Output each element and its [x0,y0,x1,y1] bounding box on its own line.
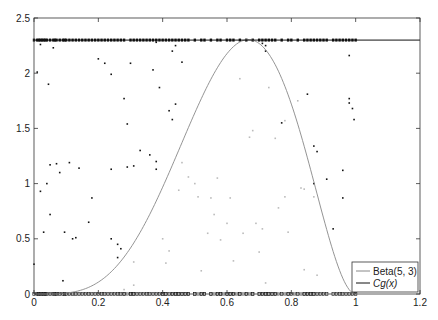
rejected-point [139,150,141,152]
rejected-point [117,244,119,246]
rejected-point [326,178,328,180]
rejected-point [69,162,71,164]
rejected-point [342,197,344,199]
accepted-point [278,207,280,209]
beta-curve [34,40,356,294]
rejected-point [98,58,100,60]
accepted-point [313,196,315,198]
accepted-point [123,289,125,291]
y-tick-label: 2.5 [16,13,30,24]
rejected-point [313,145,315,147]
axes-box [34,18,420,294]
rejected-point [352,108,354,110]
plot-area: 00.20.40.60.811.200.511.522.5 Beta(5, 3)… [0,0,438,320]
rejected-point [78,167,80,169]
rejected-point [149,154,151,156]
rejected-point [40,44,42,46]
accepted-point [242,232,244,234]
accepted-point [287,231,289,233]
accepted-point [217,177,219,179]
accepted-point [226,223,228,225]
accepted-point [168,250,170,252]
rejected-point [316,151,318,153]
accepted-point [229,197,231,199]
rejected-point [159,87,161,89]
rejected-point [342,170,344,172]
rejected-point [120,248,122,250]
rug-marks [33,39,357,296]
rejected-point [75,237,77,239]
accepted-point [316,274,318,276]
rejected-point [123,98,125,100]
x-tick-label: 0.4 [156,297,170,308]
rejected-point [117,257,119,259]
accepted-point [297,100,299,102]
rejected-point [56,163,58,165]
rejected-point [40,191,42,193]
x-tick-label: 1 [353,297,359,308]
accepted-point [274,138,276,140]
accepted-point [210,197,212,199]
rejected-point [91,197,93,199]
rejected-point [126,166,128,168]
rejected-point [181,61,183,63]
rejected-point [36,71,38,73]
accepted-point [252,130,254,132]
legend: Beta(5, 3)Cg(x) [352,262,418,292]
rejected-point [348,102,350,104]
scatter-points [33,41,355,290]
rejected-point [130,62,132,64]
rejected-point [348,98,350,100]
rejected-point [62,280,64,282]
accepted-point [133,261,135,263]
rejected-point [155,168,157,170]
rejected-point [281,122,283,124]
x-tick-label: 0.8 [284,297,298,308]
rejected-point [172,119,174,121]
rejected-point [133,165,135,167]
rejected-point [175,103,177,105]
x-tick-label: 0 [31,297,37,308]
rejected-point [262,43,264,45]
y-tick-label: 1.5 [16,123,30,134]
rejected-point [152,69,154,71]
accepted-point [249,136,251,138]
accepted-point [162,238,164,240]
rejected-point [59,172,61,174]
legend-label: Cg(x) [373,278,397,289]
rejected-point [88,221,90,223]
accepted-point [262,228,264,230]
rejected-point [53,47,55,49]
rejected-point [46,183,48,185]
rejected-point [49,164,51,166]
accepted-point [207,232,209,234]
accepted-point [133,284,135,286]
accepted-point [303,188,305,190]
accepted-point [197,196,199,198]
accepted-point [188,176,190,178]
rejected-point [168,110,170,112]
accepted-point [200,270,202,272]
y-tick-label: 2 [24,68,30,79]
accepted-point [303,269,305,271]
rejected-point [48,83,50,85]
rejected-point [110,74,112,76]
accepted-point [194,183,196,185]
rejected-point [175,45,177,47]
rejected-point [307,93,309,95]
rejected-point [72,238,74,240]
rejected-point [104,62,106,64]
y-tick-label: 0 [24,289,30,300]
legend-label: Beta(5, 3) [373,266,417,277]
accepted-point [284,196,286,198]
curve-lines [34,40,420,294]
x-tick-label: 0.6 [220,297,234,308]
rejected-point [64,231,66,233]
accepted-point [255,223,257,225]
accepted-point [178,189,180,191]
accepted-point [265,282,267,284]
accepted-point [258,251,260,253]
accepted-point [268,87,270,89]
rejected-point [348,55,350,57]
x-tick-label: 1.2 [413,297,427,308]
